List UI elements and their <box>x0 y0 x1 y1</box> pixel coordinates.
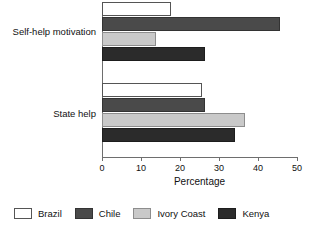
legend-item-ivory-coast: Ivory Coast <box>133 208 205 219</box>
x-tick-label-0: 0 <box>99 163 104 174</box>
legend: Brazil Chile Ivory Coast Kenya <box>0 203 313 223</box>
x-tick-label-50: 50 <box>292 163 302 174</box>
bar-self-help-motivation-ivory-coast <box>102 32 156 46</box>
x-tick-50 <box>297 157 298 161</box>
plot-area: 0 10 20 30 40 50 <box>102 2 297 157</box>
category-label-0: Self-help motivation <box>13 26 96 37</box>
bar-state-help-ivory-coast <box>102 113 245 127</box>
x-tick-label-20: 20 <box>175 163 185 174</box>
legend-swatch-brazil <box>14 208 32 219</box>
x-tick-label-10: 10 <box>136 163 146 174</box>
legend-swatch-kenya <box>218 208 236 219</box>
bar-chart: Self-help motivation State help 0 10 20 … <box>0 0 313 241</box>
legend-label-ivory-coast: Ivory Coast <box>157 208 205 219</box>
legend-swatch-ivory-coast <box>133 208 151 219</box>
category-label-1: State help <box>53 108 96 119</box>
legend-item-brazil: Brazil <box>14 208 62 219</box>
legend-label-chile: Chile <box>99 208 121 219</box>
x-tick-label-30: 30 <box>214 163 224 174</box>
x-tick-20 <box>180 157 181 161</box>
legend-label-kenya: Kenya <box>242 208 269 219</box>
x-tick-label-40: 40 <box>253 163 263 174</box>
x-tick-40 <box>258 157 259 161</box>
bar-state-help-chile <box>102 98 205 112</box>
bar-self-help-motivation-chile <box>102 17 280 31</box>
x-axis-line <box>102 157 297 158</box>
bar-state-help-brazil <box>102 83 202 97</box>
bar-self-help-motivation-brazil <box>102 2 171 16</box>
legend-label-brazil: Brazil <box>38 208 62 219</box>
bar-self-help-motivation-kenya <box>102 47 205 61</box>
legend-item-chile: Chile <box>75 208 121 219</box>
bar-state-help-kenya <box>102 128 235 142</box>
x-axis-title: Percentage <box>102 176 297 187</box>
x-tick-0 <box>102 157 103 161</box>
x-tick-30 <box>219 157 220 161</box>
x-tick-10 <box>141 157 142 161</box>
legend-item-kenya: Kenya <box>218 208 269 219</box>
legend-swatch-chile <box>75 208 93 219</box>
